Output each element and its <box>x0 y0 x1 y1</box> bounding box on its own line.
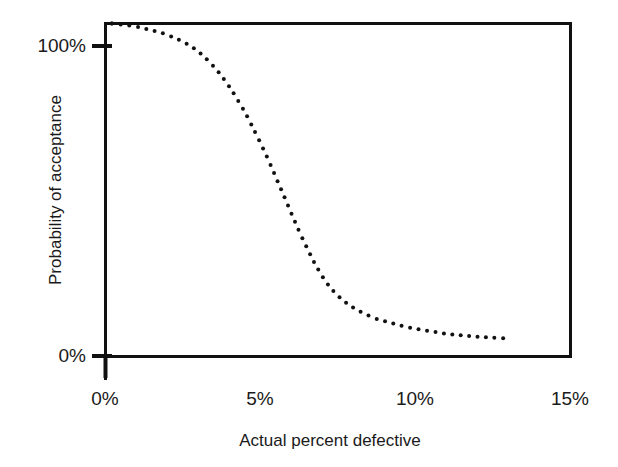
y-tick-label-100: 100% <box>0 35 86 57</box>
y-tick-label-0: 0% <box>0 345 86 367</box>
x-tick-label-5: 5% <box>246 388 273 410</box>
y-tick-marks <box>92 46 112 356</box>
x-axis-title: Actual percent defective <box>239 431 420 451</box>
x-tick-label-0: 0% <box>91 388 118 410</box>
y-axis-title: Probability of acceptance <box>46 95 66 285</box>
oc-curve-figure: 100% 0% 0% 5% 10% 15% Actual percent def… <box>0 0 618 467</box>
plot-frame <box>106 24 571 357</box>
x-tick-label-15: 15% <box>551 388 589 410</box>
oc-curve-dots <box>110 22 505 341</box>
x-tick-label-10: 10% <box>396 388 434 410</box>
